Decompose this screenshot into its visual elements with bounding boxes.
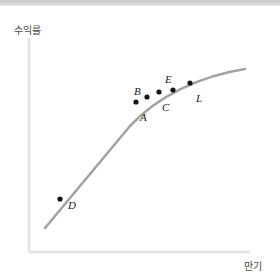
y-axis-label: 수익률 <box>14 22 42 37</box>
data-point-b[interactable] <box>144 94 149 99</box>
point-label-d: D <box>68 200 76 211</box>
data-point-d[interactable] <box>57 196 62 201</box>
point-label-e: E <box>165 74 172 85</box>
point-label-l: L <box>196 93 202 104</box>
data-point-e[interactable] <box>170 87 175 92</box>
data-point-c[interactable] <box>156 89 161 94</box>
yield-curve-figure: 수익률 만기 D A B C E L <box>0 0 280 280</box>
data-point-group <box>57 80 192 201</box>
data-point-l[interactable] <box>187 80 192 85</box>
point-label-a: A <box>140 112 147 123</box>
chart-canvas <box>0 0 280 280</box>
point-label-c: C <box>162 102 169 113</box>
x-axis-label: 만기 <box>244 258 262 273</box>
data-point-a[interactable] <box>133 99 138 104</box>
point-label-b: B <box>134 86 141 97</box>
